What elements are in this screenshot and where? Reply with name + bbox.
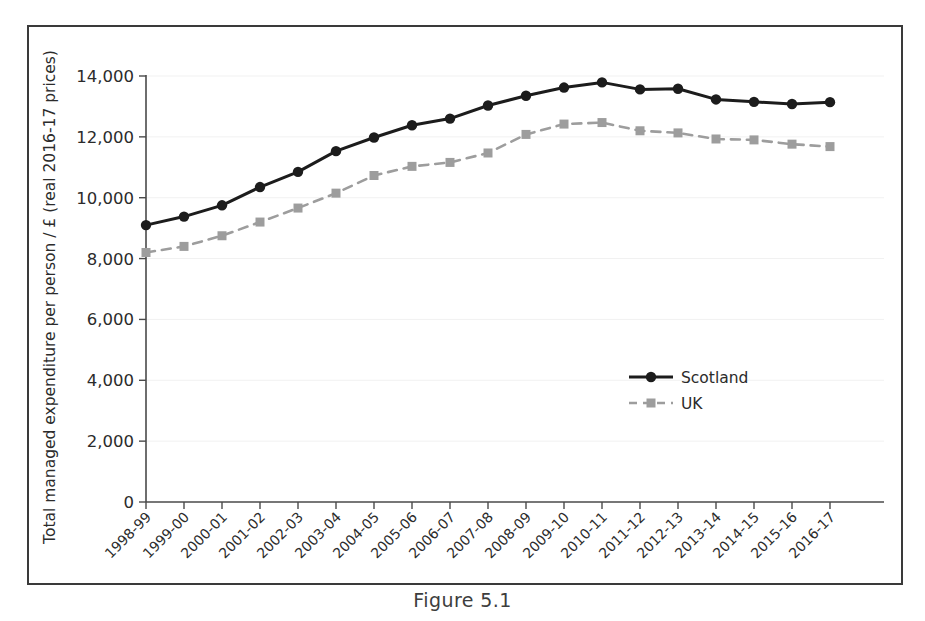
chart-legend: ScotlandUK [629,369,748,413]
data-point-marker [522,130,531,139]
data-point-marker [445,113,455,123]
line-chart: 02,0004,0006,0008,00010,00012,00014,000T… [29,27,905,587]
data-point-marker [788,140,797,149]
legend-marker [647,399,656,408]
figure-frame: 02,0004,0006,0008,00010,00012,00014,000T… [27,25,903,585]
y-axis-tick-label: 8,000 [87,250,134,269]
data-point-marker [750,135,759,144]
data-point-marker [598,118,607,127]
y-axis-tick-label: 10,000 [76,189,134,208]
y-axis-tick-label: 4,000 [87,371,134,390]
data-point-marker [712,134,721,143]
y-axis-tick-label: 0 [124,493,135,512]
chart-plot-area: 02,0004,0006,0008,00010,00012,00014,000T… [29,27,901,583]
y-axis-tick-label: 12,000 [76,128,134,147]
data-point-marker [179,211,189,221]
data-point-marker [787,99,797,109]
data-point-marker [293,167,303,177]
data-point-marker [825,97,835,107]
series-uk [142,118,835,257]
data-point-marker [256,218,265,227]
data-point-marker [370,171,379,180]
legend-marker [646,372,656,382]
data-point-marker [597,77,607,87]
series-line [146,123,830,253]
legend-label: UK [681,395,703,413]
data-point-marker [217,200,227,210]
data-point-marker [180,242,189,251]
data-point-marker [332,189,341,198]
y-axis-tick-label: 14,000 [76,67,134,86]
gridlines [146,76,884,441]
data-point-marker [636,126,645,135]
y-axis-title: Total managed expenditure per person / £… [41,50,59,545]
data-point-marker [826,142,835,151]
data-point-marker [408,162,417,171]
data-point-marker [673,84,683,94]
y-axis-tick-label: 2,000 [87,432,134,451]
data-point-marker [749,97,759,107]
data-point-marker [218,231,227,240]
data-point-marker [407,120,417,130]
data-point-marker [141,220,151,230]
data-point-marker [559,82,569,92]
data-point-marker [294,204,303,213]
figure-caption: Figure 5.1 [0,589,925,611]
data-point-marker [635,84,645,94]
data-point-marker [521,91,531,101]
data-point-marker [142,248,151,257]
data-point-marker [446,158,455,167]
legend-label: Scotland [681,369,748,387]
data-point-marker [369,132,379,142]
data-point-marker [484,148,493,157]
data-point-marker [674,128,683,137]
data-point-marker [560,120,569,129]
y-axis: 02,0004,0006,0008,00010,00012,00014,000 [76,67,146,512]
data-point-marker [711,94,721,104]
x-axis: 1998-991999-002000-012001-022002-032003-… [101,502,884,561]
data-point-marker [255,182,265,192]
data-point-marker [483,100,493,110]
data-point-marker [331,146,341,156]
y-axis-tick-label: 6,000 [87,310,134,329]
